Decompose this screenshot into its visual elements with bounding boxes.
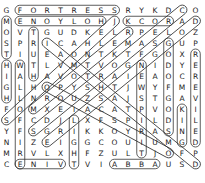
- grid-letter[interactable]: I: [41, 38, 54, 49]
- grid-letter[interactable]: U: [68, 93, 81, 104]
- grid-letter[interactable]: V: [54, 159, 67, 170]
- grid-letter[interactable]: H: [27, 82, 40, 93]
- grid-letter[interactable]: A: [176, 93, 189, 104]
- grid-letter[interactable]: G: [162, 38, 175, 49]
- grid-letter[interactable]: V: [189, 93, 202, 104]
- grid-letter[interactable]: Y: [176, 60, 189, 71]
- grid-letter[interactable]: I: [149, 60, 162, 71]
- grid-letter[interactable]: T: [122, 104, 135, 115]
- grid-letter[interactable]: I: [95, 159, 108, 170]
- grid-letter[interactable]: I: [14, 137, 27, 148]
- grid-letter[interactable]: V: [95, 60, 108, 71]
- grid-letter[interactable]: O: [162, 148, 175, 159]
- grid-letter[interactable]: R: [54, 126, 67, 137]
- grid-letter[interactable]: S: [162, 126, 175, 137]
- grid-letter[interactable]: I: [68, 104, 81, 115]
- grid-letter[interactable]: U: [176, 38, 189, 49]
- grid-letter[interactable]: I: [0, 71, 13, 82]
- grid-letter[interactable]: L: [68, 16, 81, 27]
- grid-letter[interactable]: B: [122, 159, 135, 170]
- grid-letter[interactable]: L: [41, 148, 54, 159]
- grid-letter[interactable]: X: [81, 115, 94, 126]
- grid-letter[interactable]: A: [81, 104, 94, 115]
- grid-letter[interactable]: D: [41, 115, 54, 126]
- grid-letter[interactable]: K: [176, 104, 189, 115]
- grid-letter[interactable]: L: [68, 115, 81, 126]
- grid-letter[interactable]: X: [41, 104, 54, 115]
- grid-letter[interactable]: R: [41, 93, 54, 104]
- grid-letter[interactable]: R: [41, 5, 54, 16]
- grid-letter[interactable]: P: [135, 27, 148, 38]
- grid-letter[interactable]: M: [122, 38, 135, 49]
- grid-letter[interactable]: O: [0, 27, 13, 38]
- grid-letter[interactable]: O: [176, 27, 189, 38]
- grid-letter[interactable]: I: [68, 126, 81, 137]
- grid-letter[interactable]: O: [41, 16, 54, 27]
- grid-letter[interactable]: N: [135, 60, 148, 71]
- grid-letter[interactable]: O: [162, 49, 175, 60]
- grid-letter[interactable]: A: [108, 104, 121, 115]
- grid-letter[interactable]: T: [149, 93, 162, 104]
- grid-letter[interactable]: C: [176, 5, 189, 16]
- grid-letter[interactable]: Y: [68, 82, 81, 93]
- grid-letter[interactable]: U: [122, 137, 135, 148]
- grid-letter[interactable]: G: [68, 137, 81, 148]
- grid-letter[interactable]: O: [108, 137, 121, 148]
- grid-letter[interactable]: R: [122, 27, 135, 38]
- grid-letter[interactable]: Q: [41, 82, 54, 93]
- grid-letter[interactable]: O: [162, 71, 175, 82]
- grid-letter[interactable]: L: [108, 27, 121, 38]
- grid-letter[interactable]: X: [54, 148, 67, 159]
- grid-letter[interactable]: K: [149, 5, 162, 16]
- grid-letter[interactable]: C: [54, 38, 67, 49]
- grid-letter[interactable]: C: [27, 115, 40, 126]
- grid-letter[interactable]: L: [95, 38, 108, 49]
- grid-letter[interactable]: C: [176, 71, 189, 82]
- grid-letter[interactable]: C: [95, 104, 108, 115]
- grid-letter[interactable]: R: [68, 5, 81, 16]
- grid-letter[interactable]: N: [81, 49, 94, 60]
- grid-letter[interactable]: O: [68, 49, 81, 60]
- grid-letter[interactable]: R: [135, 126, 148, 137]
- grid-letter[interactable]: I: [189, 104, 202, 115]
- grid-letter[interactable]: A: [135, 38, 148, 49]
- grid-letter[interactable]: N: [27, 93, 40, 104]
- grid-letter[interactable]: T: [27, 27, 40, 38]
- grid-letter[interactable]: E: [41, 137, 54, 148]
- grid-letter[interactable]: X: [176, 49, 189, 60]
- grid-letter[interactable]: R: [189, 71, 202, 82]
- grid-letter[interactable]: O: [149, 16, 162, 27]
- grid-letter[interactable]: E: [41, 49, 54, 60]
- grid-letter[interactable]: A: [14, 71, 27, 82]
- grid-letter[interactable]: V: [14, 27, 27, 38]
- grid-letter[interactable]: Y: [122, 126, 135, 137]
- grid-letter[interactable]: F: [0, 104, 13, 115]
- grid-letter[interactable]: G: [149, 49, 162, 60]
- grid-letter[interactable]: O: [108, 60, 121, 71]
- grid-letter[interactable]: F: [14, 5, 27, 16]
- grid-letter[interactable]: M: [68, 60, 81, 71]
- grid-letter[interactable]: J: [122, 82, 135, 93]
- grid-letter[interactable]: A: [176, 16, 189, 27]
- grid-letter[interactable]: I: [176, 115, 189, 126]
- grid-letter[interactable]: L: [14, 93, 27, 104]
- grid-letter[interactable]: Y: [149, 82, 162, 93]
- grid-letter[interactable]: O: [54, 93, 67, 104]
- grid-letter[interactable]: R: [122, 5, 135, 16]
- grid-letter[interactable]: O: [27, 5, 40, 16]
- grid-letter[interactable]: G: [122, 60, 135, 71]
- grid-letter[interactable]: U: [108, 148, 121, 159]
- grid-letter[interactable]: I: [54, 137, 67, 148]
- grid-letter[interactable]: V: [81, 159, 94, 170]
- grid-letter[interactable]: S: [0, 38, 13, 49]
- grid-letter[interactable]: T: [54, 5, 67, 16]
- grid-letter[interactable]: D: [162, 5, 175, 16]
- grid-letter[interactable]: L: [41, 60, 54, 71]
- grid-letter[interactable]: L: [14, 82, 27, 93]
- grid-letter[interactable]: D: [68, 27, 81, 38]
- grid-letter[interactable]: T: [27, 60, 40, 71]
- grid-letter[interactable]: M: [162, 137, 175, 148]
- grid-letter[interactable]: A: [41, 71, 54, 82]
- grid-letter[interactable]: F: [162, 82, 175, 93]
- grid-letter[interactable]: B: [135, 159, 148, 170]
